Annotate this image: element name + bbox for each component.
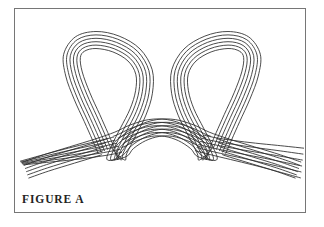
rope-strand bbox=[196, 140, 302, 160]
rope-strand bbox=[80, 48, 295, 178]
figure-caption-label: FIGURE A bbox=[22, 193, 84, 205]
rope-strand bbox=[194, 150, 300, 178]
rope-strand bbox=[77, 45, 297, 175]
figure-sheet: FIGURE A bbox=[0, 0, 324, 227]
